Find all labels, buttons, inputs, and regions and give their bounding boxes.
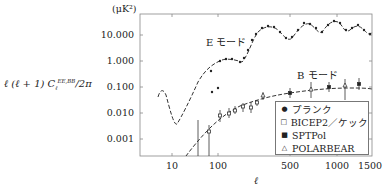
e-mode-label: E モード [206, 34, 246, 49]
legend-label: POLARBEAR [292, 142, 354, 155]
polarbear-points [261, 79, 347, 100]
bicep-points [198, 100, 259, 156]
legend-label: SPTPol [292, 129, 326, 142]
legend-label: プランク [292, 103, 332, 116]
legend-item-bicep: □BICEP2／ケック [280, 116, 368, 129]
filled-circle-marker-icon: ● [280, 103, 289, 116]
legend-item-planck: ●プランク [280, 103, 368, 116]
legend-item-polarbear: △POLARBEAR [280, 142, 368, 155]
plot-area [0, 0, 389, 190]
filled-square-marker-icon: ■ [280, 129, 289, 142]
open-triangle-marker-icon: △ [280, 142, 289, 155]
legend-item-sptpol: ■SPTPol [280, 129, 368, 142]
open-square-marker-icon: □ [280, 116, 288, 129]
legend: ●プランク □BICEP2／ケック ■SPTPol △POLARBEAR [275, 101, 369, 155]
planck-points [210, 20, 371, 93]
legend-label: BICEP2／ケック [291, 116, 368, 129]
b-mode-label: B モード [297, 67, 338, 82]
